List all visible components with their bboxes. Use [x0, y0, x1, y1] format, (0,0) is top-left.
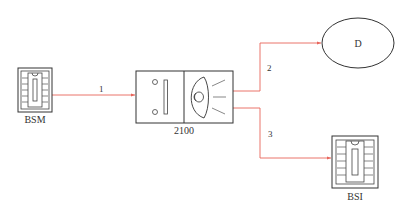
wire-1: 1 [52, 84, 135, 95]
wire-2: 2 [233, 43, 321, 91]
unit-2100[interactable]: 2100 [136, 71, 233, 136]
bsi-label: BSI [347, 191, 363, 202]
bsi-outer-box [332, 136, 378, 188]
wire-1-label: 1 [99, 84, 104, 94]
wiring-diagram: 1 2 3 BSM [0, 0, 405, 210]
wire-3-line [233, 108, 331, 158]
wire-2-line [233, 43, 321, 91]
node-d-label: D [354, 38, 361, 49]
unit-2100-label: 2100 [174, 125, 194, 136]
wire-2-label: 2 [267, 63, 272, 73]
bsm-module[interactable]: BSM [18, 68, 52, 125]
bsm-label: BSM [24, 114, 45, 125]
wire-3-label: 3 [268, 129, 273, 139]
wire-3: 3 [233, 108, 331, 158]
bsi-module[interactable]: BSI [332, 136, 378, 202]
node-d[interactable]: D [322, 18, 394, 68]
